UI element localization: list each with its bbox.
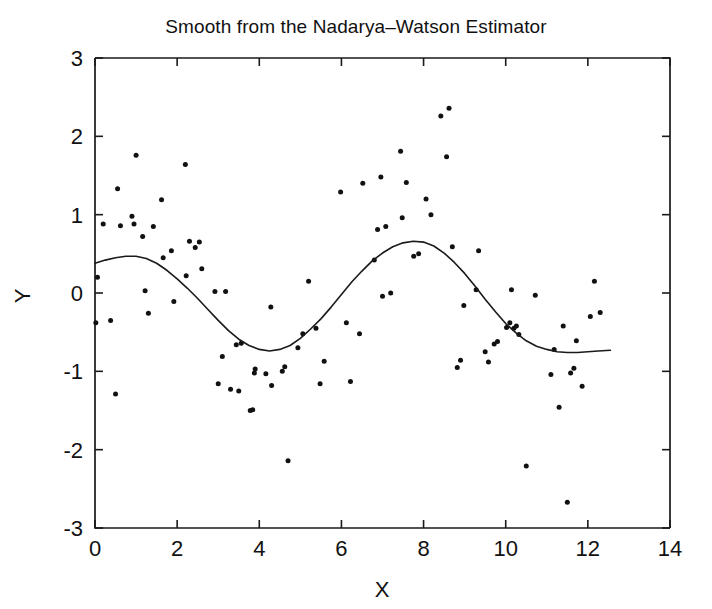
x-tick-labels: 02468101214: [89, 536, 682, 561]
data-point: [223, 289, 228, 294]
data-point: [212, 289, 217, 294]
data-point: [598, 310, 603, 315]
x-tick-label: 4: [253, 536, 265, 561]
data-point: [557, 405, 562, 410]
data-point: [169, 248, 174, 253]
data-point: [132, 222, 137, 227]
y-tick-label: 1: [71, 203, 83, 228]
data-point: [159, 197, 164, 202]
data-point: [524, 464, 529, 469]
x-tick-label: 0: [89, 536, 101, 561]
y-tick-label: 0: [71, 281, 83, 306]
y-tick-label: 2: [71, 124, 83, 149]
data-point: [253, 366, 258, 371]
data-point: [404, 180, 409, 185]
y-axis-label: Y: [10, 288, 35, 303]
data-point: [113, 392, 118, 397]
data-point: [236, 388, 241, 393]
data-point: [533, 293, 538, 298]
data-point: [565, 500, 570, 505]
data-point: [514, 323, 519, 328]
data-point: [151, 224, 156, 229]
data-point: [568, 370, 573, 375]
y-tick-label: -2: [63, 438, 83, 463]
data-points-group: [93, 106, 602, 505]
data-point: [171, 299, 176, 304]
data-point: [592, 279, 597, 284]
data-point: [199, 266, 204, 271]
data-point: [561, 323, 566, 328]
data-point: [183, 162, 188, 167]
axis-top-right: [95, 58, 670, 528]
x-tick-label: 10: [493, 536, 517, 561]
tick-marks-group: [95, 58, 670, 528]
axis-left-bottom: [95, 58, 670, 528]
data-point: [228, 387, 233, 392]
data-point: [447, 106, 452, 111]
data-point: [234, 342, 239, 347]
x-tick-label: 6: [335, 536, 347, 561]
data-point: [458, 358, 463, 363]
smooth-curve-line: [95, 241, 610, 352]
smooth-curve-group: [95, 241, 610, 352]
data-point: [398, 149, 403, 154]
data-point: [375, 227, 380, 232]
data-point: [187, 239, 192, 244]
data-point: [184, 273, 189, 278]
data-point: [318, 381, 323, 386]
data-point: [571, 366, 576, 371]
data-point: [280, 369, 285, 374]
data-point: [161, 255, 166, 260]
data-point: [129, 214, 134, 219]
data-point: [322, 359, 327, 364]
data-point: [388, 291, 393, 296]
data-point: [450, 244, 455, 249]
data-point: [101, 222, 106, 227]
data-point: [220, 354, 225, 359]
data-point: [344, 320, 349, 325]
data-point: [424, 197, 429, 202]
data-point: [263, 371, 268, 376]
y-tick-labels: -3-2-10123: [63, 46, 83, 541]
data-point: [143, 288, 148, 293]
data-point: [483, 349, 488, 354]
y-tick-label: 3: [71, 46, 83, 71]
data-point: [411, 254, 416, 259]
data-point: [357, 331, 362, 336]
data-point: [282, 364, 287, 369]
x-tick-label: 8: [417, 536, 429, 561]
data-point: [548, 372, 553, 377]
data-point: [428, 212, 433, 217]
data-point: [95, 275, 100, 280]
data-point: [580, 384, 585, 389]
data-point: [93, 320, 98, 325]
x-tick-label: 12: [576, 536, 600, 561]
data-point: [495, 339, 500, 344]
data-point: [438, 113, 443, 118]
y-tick-label: -1: [63, 359, 83, 384]
data-point: [509, 287, 514, 292]
data-point: [197, 240, 202, 245]
data-point: [360, 181, 365, 186]
x-tick-label: 2: [171, 536, 183, 561]
data-point: [338, 189, 343, 194]
data-point: [108, 318, 113, 323]
x-axis-label: X: [375, 577, 390, 602]
data-point: [295, 345, 300, 350]
data-point: [574, 338, 579, 343]
data-point: [115, 186, 120, 191]
data-point: [140, 234, 145, 239]
x-tick-label: 14: [658, 536, 682, 561]
data-point: [216, 381, 221, 386]
data-point: [146, 311, 151, 316]
data-point: [461, 303, 466, 308]
data-point: [348, 379, 353, 384]
data-point: [383, 224, 388, 229]
data-point: [378, 175, 383, 180]
data-point: [588, 314, 593, 319]
data-point: [400, 215, 405, 220]
scatter-plot: 02468101214 -3-2-10123 X Y: [0, 0, 712, 609]
data-point: [193, 245, 198, 250]
data-point: [286, 458, 291, 463]
axes-group: [95, 58, 670, 528]
